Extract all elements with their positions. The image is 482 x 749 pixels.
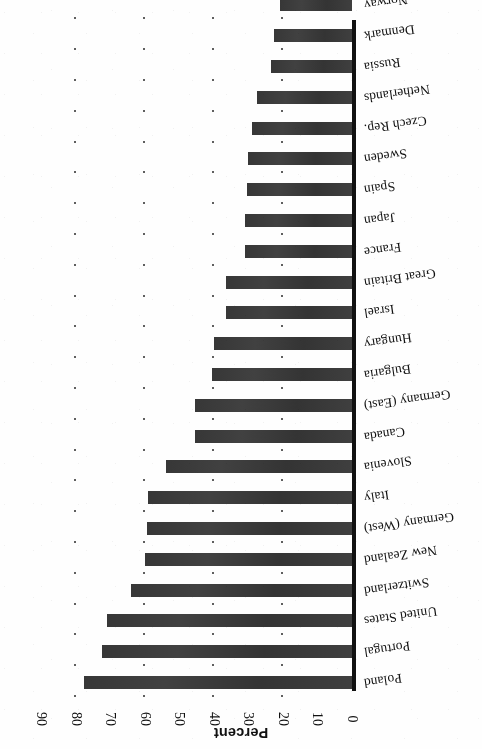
axis-title: Percent: [141, 725, 341, 741]
tick-label-70: 70: [103, 702, 119, 736]
tick-label-80: 80: [68, 702, 84, 736]
tick-label-0: 0: [344, 702, 360, 736]
chart-plot-area: PolandPortugalUnited StatesSwitzerlandNe…: [0, 0, 482, 749]
chart-figure: PolandPortugalUnited StatesSwitzerlandNe…: [0, 0, 482, 749]
value-axis-tick-labels: 0102030405060708090: [0, 0, 482, 749]
tick-label-90: 90: [34, 702, 50, 736]
